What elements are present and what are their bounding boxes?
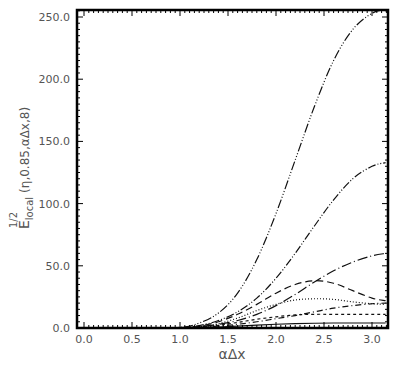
series-line-curve-5 bbox=[84, 303, 386, 328]
series-line-curve-3 bbox=[84, 253, 386, 328]
y-axis-title-args: (η,0.85,αΔx,8) bbox=[18, 107, 32, 193]
series-layer bbox=[84, 10, 386, 329]
series-line-curve-1 bbox=[84, 10, 386, 329]
svg-text:Elocal(η,0.85,αΔx,8): Elocal(η,0.85,αΔx,8) bbox=[16, 107, 35, 229]
y-tick-label: 250.0 bbox=[39, 11, 71, 24]
line-chart: 0.00.51.01.52.02.53.0 0.050.0100.0150.02… bbox=[0, 0, 396, 372]
x-tick-label: 2.0 bbox=[267, 333, 285, 346]
x-tick-labels: 0.00.51.01.52.02.53.0 bbox=[75, 333, 381, 346]
plot-frame bbox=[77, 10, 388, 328]
x-tick-label: 2.5 bbox=[315, 333, 333, 346]
series-line-curve-4 bbox=[84, 281, 386, 328]
y-axis-title: Elocal(η,0.85,αΔx,8) 1/2 bbox=[8, 107, 35, 229]
y-axis-title-subscript: local bbox=[24, 197, 35, 220]
x-tick-label: 0.0 bbox=[75, 333, 93, 346]
series-line-curve-6 bbox=[84, 299, 386, 328]
y-tick-label: 200.0 bbox=[39, 73, 71, 86]
y-axis-title-superscript: 1/2 bbox=[8, 212, 19, 228]
x-tick-label: 1.0 bbox=[171, 333, 189, 346]
y-tick-labels: 0.050.0100.0150.0200.0250.0 bbox=[39, 11, 71, 335]
x-axis-title: αΔx bbox=[218, 346, 245, 362]
series-line-curve-2 bbox=[84, 163, 386, 328]
y-tick-label: 0.0 bbox=[53, 322, 71, 335]
y-tick-label: 100.0 bbox=[39, 198, 71, 211]
ticks-layer bbox=[77, 10, 388, 328]
y-tick-label: 50.0 bbox=[46, 260, 71, 273]
x-tick-label: 3.0 bbox=[363, 333, 381, 346]
x-tick-label: 0.5 bbox=[123, 333, 141, 346]
y-tick-label: 150.0 bbox=[39, 135, 71, 148]
x-tick-label: 1.5 bbox=[219, 333, 237, 346]
